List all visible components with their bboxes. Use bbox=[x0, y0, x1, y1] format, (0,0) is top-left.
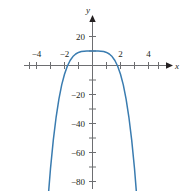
y-axis-arrow-icon bbox=[89, 15, 95, 22]
x-tick-label-minus4: −4 bbox=[32, 49, 42, 59]
y-tick-label-minus60: −60 bbox=[71, 148, 86, 158]
y-tick-label-minus40: −40 bbox=[71, 119, 86, 129]
y-tick-label-minus20: −20 bbox=[71, 90, 86, 100]
graph-figure: y x 20 −20 −40 −60 −80 −4 −2 2 4 −100 bbox=[0, 0, 186, 191]
coordinate-plane: y x 20 −20 −40 −60 −80 −4 −2 2 4 −100 bbox=[0, 0, 186, 191]
x-tick-label-4: 4 bbox=[146, 49, 151, 59]
x-tick-label-2: 2 bbox=[118, 49, 123, 59]
x-axis-arrow-icon bbox=[166, 62, 173, 68]
y-axis-label: y bbox=[85, 5, 90, 15]
x-tick-label-minus2: −2 bbox=[60, 49, 70, 59]
x-axis-label: x bbox=[174, 61, 179, 71]
y-tick-label-20: 20 bbox=[76, 32, 86, 42]
y-tick-label-minus80: −80 bbox=[71, 177, 86, 187]
